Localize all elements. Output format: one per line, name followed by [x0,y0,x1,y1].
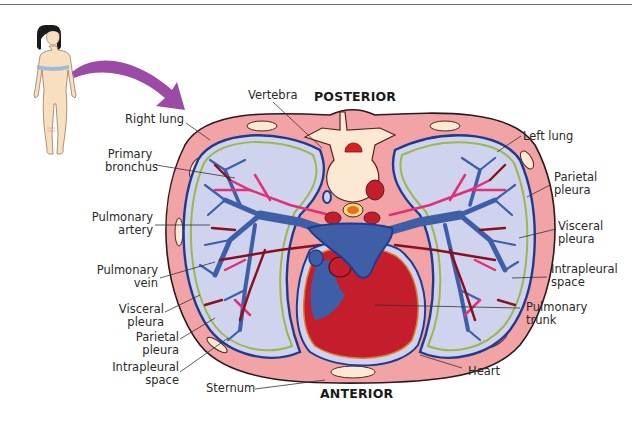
aorta-shape [366,180,384,200]
vena-azygos-shape [323,191,331,203]
esophagus-lumen [347,206,359,214]
sternum-shape [331,366,375,378]
label-parietal-pleura-left: Parietalpleura [117,331,179,357]
label-parietal-pleura-right: Parietalpleura [554,171,597,197]
arrow-icon [72,61,185,110]
pulmonary-vessel-right [325,212,341,224]
anterior-heading: ANTERIOR [320,386,393,401]
label-pulmonary-artery: Pulmonaryartery [85,211,153,237]
label-sternum: Sternum [206,382,255,395]
label-intrapleural-space-right: Intrapleuralspace [551,263,618,289]
label-left-lung: Left lung [523,130,573,143]
label-heart: Heart [468,365,500,378]
label-visceral-pleura-left: Visceralpleura [100,303,164,329]
label-pulmonary-vein: Pulmonaryvein [90,264,158,290]
label-visceral-pleura-right: Visceralpleura [558,220,603,246]
pulmonary-vessel-left [364,212,380,224]
label-intrapleural-space-left: Intrapleuralspace [100,361,179,387]
label-pulmonary-trunk: Pulmonarytrunk [526,301,587,327]
label-vertebra: Vertebra [248,89,297,102]
posterior-heading: POSTERIOR [314,89,396,104]
label-right-lung: Right lung [100,113,184,126]
human-body-icon [34,25,76,154]
label-primary-bronchus: Primarybronchus [105,148,155,174]
